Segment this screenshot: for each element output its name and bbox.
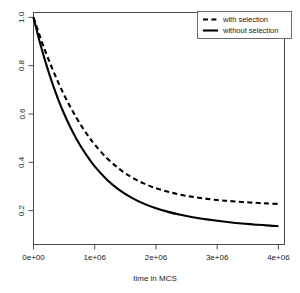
- y-tick-label-4: 0.2: [18, 205, 27, 217]
- chart-background: [0, 0, 300, 293]
- legend-label-with-selection: with selection: [222, 15, 268, 24]
- y-tick-label-3: 0.4: [18, 156, 27, 168]
- legend-label-without-selection: without selection: [222, 26, 278, 35]
- y-tick-label-0: 1.0: [18, 11, 27, 23]
- x-tick-label-1: 1e+06: [83, 253, 106, 262]
- x-tick-label-4: 4e+06: [267, 253, 290, 262]
- y-tick-label-1: 0.8: [18, 60, 27, 72]
- x-tick-label-0: 0e+00: [22, 253, 45, 262]
- x-tick-label-2: 2e+06: [145, 253, 168, 262]
- x-axis-title: time in MCS: [133, 274, 177, 283]
- chart-legend: with selection without selection: [198, 12, 292, 39]
- x-tick-label-3: 3e+06: [206, 253, 229, 262]
- chart-figure: 1.00.80.60.40.2 0e+001e+062e+063e+064e+0…: [0, 0, 300, 293]
- line-chart: 1.00.80.60.40.2 0e+001e+062e+063e+064e+0…: [0, 0, 300, 293]
- y-tick-label-2: 0.6: [18, 108, 27, 120]
